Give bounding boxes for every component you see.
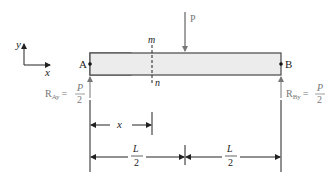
point-b-marker (279, 62, 283, 66)
beam-diagram: y x A B m n P RAy= P 2 RBy= P 2 (0, 0, 333, 182)
beam-body (90, 53, 281, 75)
point-load-p: P (185, 12, 196, 51)
left-half-denominator: 2 (134, 157, 139, 168)
reaction-a-equals: = (62, 88, 68, 99)
reaction-b-denominator: 2 (317, 94, 322, 105)
reaction-b-equals: = (303, 88, 309, 99)
point-b-label: B (285, 58, 292, 70)
dimension-right-half: L 2 (186, 143, 280, 168)
reaction-b-subscript: By (293, 93, 302, 101)
svg-text:RAy=: RAy= (45, 88, 68, 101)
point-a-label: A (79, 58, 87, 70)
section-label-n: n (155, 77, 160, 88)
reaction-a: RAy= P 2 (45, 77, 90, 105)
right-half-numerator: L (226, 143, 233, 154)
reaction-b: RBy= P 2 (281, 77, 325, 105)
reaction-b-numerator: P (316, 82, 323, 93)
svg-text:RBy=: RBy= (286, 88, 309, 101)
right-half-denominator: 2 (228, 157, 233, 168)
left-half-numerator: L (132, 143, 139, 154)
section-label-m: m (148, 34, 155, 45)
coordinate-axes: y x (15, 38, 50, 78)
reaction-a-numerator: P (76, 82, 83, 93)
dimension-x: x (91, 118, 151, 130)
reaction-a-subscript: Ay (52, 93, 60, 101)
load-label: P (190, 13, 196, 24)
dimension-left-half: L 2 (91, 143, 184, 168)
point-a-marker (88, 62, 92, 66)
dimension-x-label: x (116, 118, 122, 130)
reaction-a-denominator: 2 (77, 94, 82, 105)
y-axis-label: y (15, 38, 21, 50)
x-axis-label: x (44, 66, 50, 78)
